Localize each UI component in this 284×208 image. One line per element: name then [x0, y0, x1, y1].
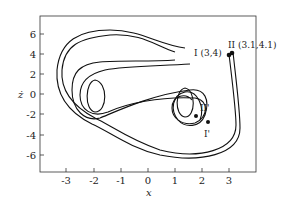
y-axis-label: ż: [17, 89, 24, 100]
xtick: 0: [145, 175, 151, 186]
ytick: -4: [26, 130, 36, 141]
xtick: 2: [199, 175, 205, 186]
ytick: -6: [26, 150, 36, 161]
xtick: -1: [116, 175, 126, 186]
xtick: 1: [172, 175, 178, 186]
annotation-I: I (3,4): [194, 48, 222, 58]
annotation-I-prime: I': [204, 129, 210, 139]
ytick: 6: [30, 29, 36, 40]
y-axis: [40, 34, 44, 155]
x-axis: [66, 168, 229, 172]
phase-portrait-chart: 6 4 2 0 -2 -4 -6 ż -3 -2 -1 0 1 2 3 x I …: [0, 0, 284, 208]
annotation-II: II (3.1,4.1): [228, 40, 276, 50]
xtick: -2: [89, 175, 99, 186]
ytick: -2: [26, 109, 36, 120]
xtick: -3: [61, 175, 71, 186]
xtick: 3: [226, 175, 232, 186]
x-axis-label: x: [146, 187, 152, 198]
end-point-I-prime: [206, 120, 210, 124]
annotation-II-prime: II': [200, 103, 210, 113]
ytick: 2: [30, 69, 36, 80]
ytick: 0: [30, 89, 36, 100]
start-point-II: [230, 51, 235, 56]
end-point-II-prime: [194, 114, 198, 118]
ytick: 4: [30, 49, 36, 60]
